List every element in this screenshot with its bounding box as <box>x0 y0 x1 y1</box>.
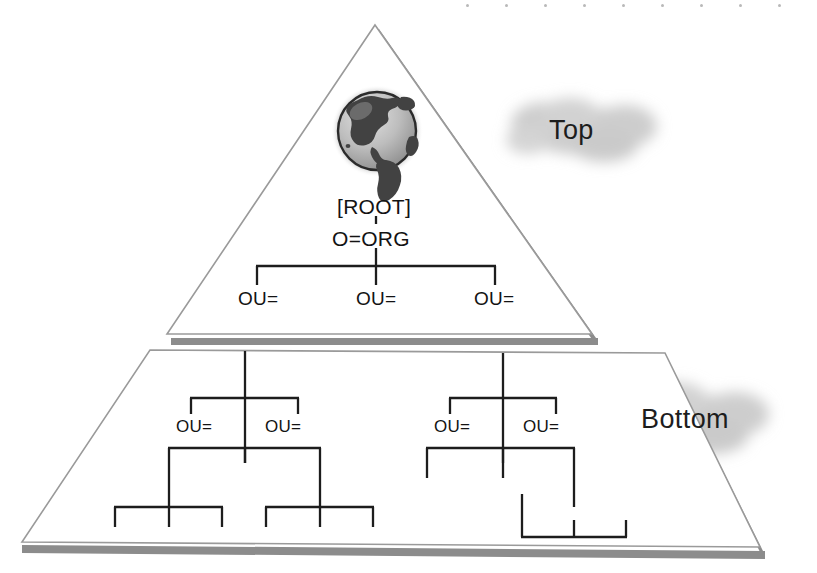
org-label: O=ORG <box>332 228 410 249</box>
bottom-right-ou-label-2: OU= <box>523 418 559 435</box>
pyramid-diagram-svg <box>0 0 817 573</box>
diagram-canvas: [ROOT] O=ORG OU= OU= OU= OU= OU= OU= OU=… <box>0 0 817 573</box>
bottom-trapezoid-shape <box>22 350 760 547</box>
top-ou-label-3: OU= <box>474 289 514 308</box>
cloud-label-bottom: Bottom <box>641 406 729 433</box>
top-ou-label-2: OU= <box>356 289 396 308</box>
bottom-left-ou-label-1: OU= <box>176 418 212 435</box>
top-ou-label-1: OU= <box>238 289 278 308</box>
root-label: [ROOT] <box>337 196 411 217</box>
bottom-right-ou-label-1: OU= <box>434 418 470 435</box>
cloud-label-top: Top <box>549 117 594 144</box>
bottom-left-ou-label-2: OU= <box>265 418 301 435</box>
